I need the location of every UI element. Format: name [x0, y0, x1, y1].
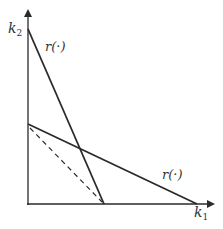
x-axis-label: k1 [194, 204, 208, 222]
dashed-line [30, 128, 102, 202]
steep-reaction-line [28, 29, 104, 204]
flat-curve-label: r(·) [162, 167, 183, 182]
steep-curve-label: r(·) [45, 39, 66, 54]
y-axis-label: k2 [8, 20, 22, 38]
flat-reaction-line [28, 124, 197, 204]
reaction-diagram: k2 k1 r(·) r(·) [0, 0, 223, 229]
